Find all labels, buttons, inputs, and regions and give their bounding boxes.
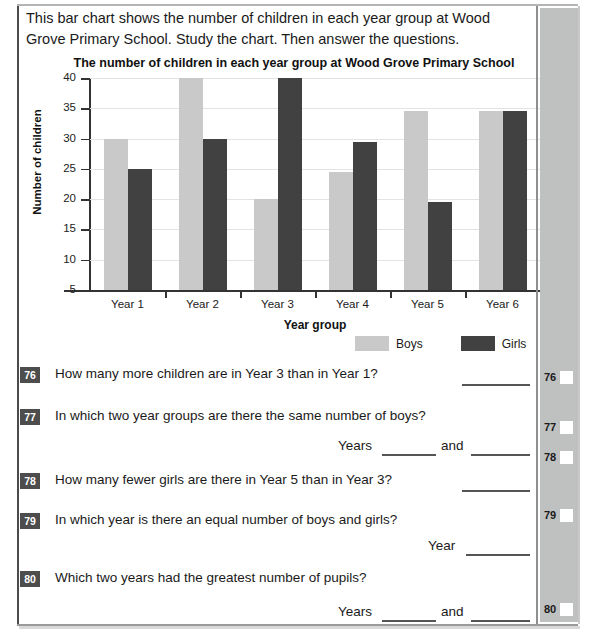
legend-label-boys: Boys <box>396 337 423 351</box>
legend-swatch-boys <box>355 336 389 351</box>
answer-line-79[interactable] <box>466 554 530 556</box>
mark-box-80[interactable] <box>560 603 573 616</box>
x-axis-separator <box>240 290 242 298</box>
marking-margin-outer-rule <box>578 6 580 624</box>
bar-year-4-girls <box>353 142 377 290</box>
y-axis-tick <box>81 260 90 262</box>
x-axis-separator <box>465 290 467 298</box>
answer-prefix-80: Years <box>338 604 372 619</box>
question-number-79: 79 <box>20 513 40 529</box>
mark-number-78: 78 <box>540 451 560 463</box>
y-axis-title: Number of children <box>31 87 43 237</box>
y-axis-tick <box>81 139 90 141</box>
mark-number-79: 79 <box>540 509 560 521</box>
question-text-79: In which year is there an equal number o… <box>55 512 397 527</box>
question-text-77: In which two year groups are there the s… <box>55 408 426 423</box>
gridline <box>90 78 540 79</box>
mark-row-76: 76 <box>540 368 578 386</box>
y-axis-tick-label: 10 <box>48 253 76 265</box>
bar-year-3-girls <box>278 78 302 290</box>
x-axis-separator <box>315 290 317 298</box>
mark-box-78[interactable] <box>560 451 573 464</box>
x-axis-title: Year group <box>90 318 540 332</box>
x-axis-label-year-6: Year 6 <box>466 298 540 310</box>
bar-year-5-boys <box>404 111 428 290</box>
x-axis-line <box>64 290 541 292</box>
gridline <box>90 169 540 170</box>
answer-line-77-b[interactable] <box>471 454 530 456</box>
bar-year-6-boys <box>479 111 503 290</box>
question-text-80: Which two years had the greatest number … <box>55 570 366 585</box>
x-axis-label-year-4: Year 4 <box>316 298 390 310</box>
legend-swatch-girls <box>461 336 495 351</box>
gridline <box>90 260 540 261</box>
bar-year-6-girls <box>503 111 527 290</box>
question-number-76: 76 <box>20 367 40 383</box>
x-axis-label-year-3: Year 3 <box>241 298 315 310</box>
y-axis-tick-label: 20 <box>48 192 76 204</box>
y-axis-tick <box>81 169 90 171</box>
question-number-80: 80 <box>20 571 40 587</box>
answer-joiner-80: and <box>441 604 464 619</box>
y-axis-tick-label: 40 <box>48 71 76 83</box>
y-axis-tick <box>81 290 90 292</box>
page-border-top <box>17 4 578 6</box>
page-shadow <box>19 626 580 629</box>
y-axis-tick-label: 30 <box>48 132 76 144</box>
answer-line-76[interactable] <box>462 384 530 386</box>
gridline <box>90 139 540 140</box>
intro-text: This bar chart shows the number of child… <box>26 8 526 50</box>
y-axis-tick <box>81 229 90 231</box>
marking-margin-inner-rule <box>536 6 538 624</box>
legend-item-girls: Girls <box>461 336 527 351</box>
gridline <box>90 229 540 230</box>
mark-row-77: 77 <box>540 418 578 436</box>
mark-row-79: 79 <box>540 506 578 524</box>
y-axis-tick <box>81 108 90 110</box>
y-axis-tick-label: 35 <box>48 101 76 113</box>
question-text-76: How many more children are in Year 3 tha… <box>55 366 378 381</box>
x-axis-label-year-1: Year 1 <box>91 298 165 310</box>
y-axis-tick-label: 25 <box>48 162 76 174</box>
y-axis-tick-label: 15 <box>48 222 76 234</box>
page-border-left <box>17 4 19 626</box>
bar-year-1-girls <box>128 169 152 290</box>
bar-year-2-girls <box>203 139 227 290</box>
bar-year-3-boys <box>254 199 278 290</box>
mark-number-77: 77 <box>540 421 560 433</box>
mark-box-79[interactable] <box>560 509 573 522</box>
x-axis-separator <box>390 290 392 298</box>
mark-box-76[interactable] <box>560 371 573 384</box>
mark-box-77[interactable] <box>560 421 573 434</box>
chart-legend: Boys Girls <box>355 336 526 351</box>
bar-year-1-boys <box>104 139 128 290</box>
answer-line-78[interactable] <box>462 490 530 492</box>
legend-label-girls: Girls <box>502 337 527 351</box>
answer-line-77-a[interactable] <box>382 454 436 456</box>
legend-item-boys: Boys <box>355 336 423 351</box>
gridline <box>90 108 540 109</box>
mark-number-76: 76 <box>540 371 560 383</box>
bar-year-2-boys <box>179 78 203 290</box>
bar-year-4-boys <box>329 172 353 290</box>
x-axis-label-year-2: Year 2 <box>166 298 240 310</box>
answer-line-80-a[interactable] <box>382 620 436 622</box>
y-axis-tick <box>81 78 90 80</box>
x-axis-separator <box>165 290 167 298</box>
answer-line-80-b[interactable] <box>471 620 530 622</box>
worksheet-page: This bar chart shows the number of child… <box>0 0 596 636</box>
answer-prefix-77: Years <box>338 438 372 453</box>
gridline <box>90 199 540 200</box>
bar-chart: The number of children in each year grou… <box>24 56 532 356</box>
answer-prefix-79: Year <box>428 538 455 553</box>
mark-row-78: 78 <box>540 448 578 466</box>
question-number-78: 78 <box>20 473 40 489</box>
bar-year-5-girls <box>428 202 452 290</box>
mark-row-80: 80 <box>540 600 578 618</box>
x-axis-label-year-5: Year 5 <box>391 298 465 310</box>
y-axis-tick <box>81 199 90 201</box>
mark-number-80: 80 <box>540 603 560 615</box>
question-text-78: How many fewer girls are there in Year 5… <box>55 472 392 487</box>
y-axis-tick-label: 5 <box>48 283 76 295</box>
marking-margin <box>540 8 578 622</box>
